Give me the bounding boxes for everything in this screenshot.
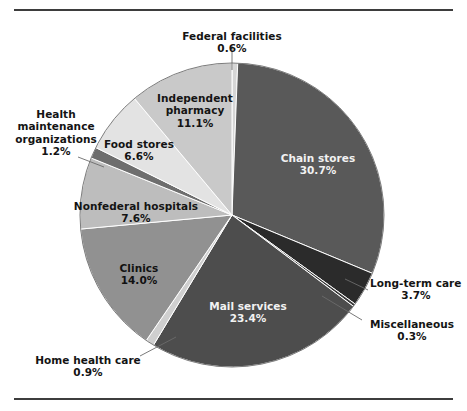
label-federal-facilities: Federal facilities 0.6%: [172, 30, 292, 55]
label-home-health-care-name: Home health care: [35, 354, 141, 366]
label-home-health-care-value: 0.9%: [33, 366, 143, 378]
label-food-stores: Food stores 6.6%: [96, 138, 182, 163]
label-nonfederal-hospitals: Nonfederal hospitals 7.6%: [72, 200, 200, 225]
label-chain-stores: Chain stores 30.7%: [270, 152, 366, 177]
label-hmo: Health maintenance organizations 1.2%: [8, 108, 104, 158]
label-hmo-name-line1: Health: [36, 108, 75, 120]
label-mail-services-value: 23.4%: [201, 312, 295, 324]
label-long-term-care-value: 3.7%: [370, 289, 462, 301]
label-independent-pharmacy-value: 11.1%: [148, 117, 242, 129]
label-long-term-care: Long-term care 3.7%: [370, 277, 464, 302]
label-nonfederal-hospitals-name: Nonfederal hospitals: [74, 200, 198, 212]
label-clinics: Clinics 14.0%: [108, 262, 170, 287]
label-hmo-name-line2: maintenance: [17, 120, 94, 132]
label-long-term-care-name: Long-term care: [370, 277, 461, 289]
label-miscellaneous: Miscellaneous 0.3%: [362, 318, 462, 343]
label-nonfederal-hospitals-value: 7.6%: [72, 212, 200, 224]
pie-chart-figure: Federal facilities 0.6% Chain stores 30.…: [0, 0, 467, 411]
label-independent-pharmacy-name-line2: pharmacy: [166, 104, 225, 116]
label-food-stores-value: 6.6%: [96, 150, 182, 162]
label-hmo-value: 1.2%: [8, 145, 104, 157]
label-independent-pharmacy-name-line1: Independent: [157, 92, 233, 104]
label-chain-stores-value: 30.7%: [270, 164, 366, 176]
label-miscellaneous-name: Miscellaneous: [370, 318, 454, 330]
label-hmo-name-line3: organizations: [15, 133, 96, 145]
label-clinics-name: Clinics: [120, 262, 159, 274]
label-chain-stores-name: Chain stores: [281, 152, 356, 164]
label-independent-pharmacy: Independent pharmacy 11.1%: [148, 92, 242, 129]
label-federal-facilities-value: 0.6%: [172, 42, 292, 54]
label-food-stores-name: Food stores: [104, 138, 174, 150]
label-home-health-care: Home health care 0.9%: [33, 354, 143, 379]
label-miscellaneous-value: 0.3%: [362, 330, 462, 342]
label-mail-services: Mail services 23.4%: [201, 300, 295, 325]
label-federal-facilities-name: Federal facilities: [182, 30, 282, 42]
label-mail-services-name: Mail services: [209, 300, 287, 312]
pie-chart-svg: [0, 0, 467, 411]
label-clinics-value: 14.0%: [108, 274, 170, 286]
